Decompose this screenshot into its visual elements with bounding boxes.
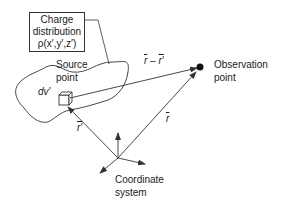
vector-r-minus-rprime-arrow <box>70 68 197 98</box>
minus-sign: – <box>147 55 158 66</box>
volume-element-cube <box>59 92 72 105</box>
charge-box-line2: distribution <box>30 26 84 38</box>
vector-rprime-symbol: r′ <box>158 55 163 66</box>
vector-rprime-label: r′ <box>77 122 82 133</box>
observation-label-line1: Observation <box>214 59 268 70</box>
source-label-line1: Source <box>56 59 88 70</box>
charge-box-leader <box>85 20 109 64</box>
volume-element-label: dv′ <box>38 86 50 97</box>
observation-point-dot <box>197 64 204 71</box>
vector-r-minus-rprime-label: r – r′ <box>144 55 164 66</box>
vector-r-label: r <box>166 113 169 124</box>
coordinate-label-line2: system <box>115 187 147 198</box>
charge-box-line3: ρ(x′,y′,z′) <box>30 38 84 50</box>
source-label-line2: point <box>56 72 78 83</box>
observation-label-line2: point <box>214 72 236 83</box>
charge-box-line1: Charge <box>30 14 84 26</box>
charge-distribution-box: Charge distribution ρ(x′,y′,z′) <box>29 12 85 52</box>
coordinate-label-line1: Coordinate <box>115 174 164 185</box>
vector-rprime-arrow <box>68 107 118 158</box>
vector-r-arrow <box>118 72 196 158</box>
